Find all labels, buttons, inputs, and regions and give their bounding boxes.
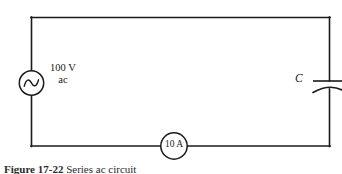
figure-caption-text: Series ac circuit	[66, 163, 136, 174]
capacitor-icon	[313, 81, 342, 93]
capacitor-plate-curved	[313, 87, 342, 92]
ac-source-icon	[19, 71, 43, 95]
capacitor-label: C	[295, 72, 303, 86]
figure-caption: Figure 17-22 Series ac circuit	[4, 163, 136, 174]
figure-caption-prefix: Figure	[4, 163, 35, 174]
source-voltage-value: 100 V	[50, 62, 76, 73]
figure-caption-number: 17-22	[38, 163, 64, 174]
source-type-label: ac	[50, 74, 76, 86]
circuit-diagram: 100 V ac C 10 A Figure 17-22 Series ac c…	[0, 0, 342, 174]
source-voltage-label: 100 V ac	[50, 62, 76, 87]
ammeter-reading-label: 10 A	[161, 139, 187, 150]
